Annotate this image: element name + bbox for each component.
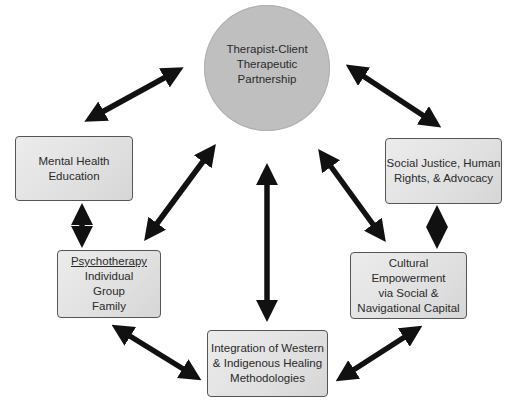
node-line: Rights, & Advocacy — [394, 171, 493, 186]
node-integration-healing: Integration of Western & Indigenous Heal… — [207, 330, 328, 397]
node-line: Navigational Capital — [357, 301, 459, 316]
arrow-hub-psychotherapy — [150, 152, 210, 233]
node-line: via Social & — [378, 286, 438, 301]
node-title: Psychotherapy — [71, 254, 147, 269]
node-social-justice: Social Justice, Human Rights, & Advocacy — [385, 138, 502, 204]
node-psychotherapy: Psychotherapy Individual Group Family — [57, 250, 161, 318]
hub-therapist-client-partnership: Therapist-Client Therapeutic Partnership — [204, 5, 330, 131]
node-line: Mental Health — [39, 154, 110, 169]
arrow-cultural-integration — [344, 331, 414, 376]
node-line: & Indigenous Healing — [213, 356, 322, 371]
node-line: Methodologies — [230, 371, 305, 386]
node-line: Social Justice, Human — [387, 156, 501, 171]
hub-line-2: Therapeutic — [226, 57, 307, 72]
node-line: Cultural Empowerment — [351, 256, 466, 286]
node-mental-health-education: Mental Health Education — [15, 136, 133, 201]
node-line: Family — [92, 299, 126, 314]
arrow-hub-mental-health — [93, 72, 175, 117]
node-line: Individual — [85, 269, 134, 284]
hub-label: Therapist-Client Therapeutic Partnership — [226, 42, 307, 87]
arrow-hub-cultural — [324, 157, 380, 234]
node-line: Education — [48, 169, 99, 184]
arrow-psychotherapy-integration — [120, 330, 193, 375]
node-line: Integration of Western — [211, 341, 324, 356]
node-line: Group — [93, 284, 125, 299]
hub-line-3: Partnership — [226, 72, 307, 87]
arrow-hub-social-justice — [354, 70, 433, 122]
node-cultural-empowerment: Cultural Empowerment via Social & Naviga… — [350, 252, 467, 319]
hub-line-1: Therapist-Client — [226, 42, 307, 57]
